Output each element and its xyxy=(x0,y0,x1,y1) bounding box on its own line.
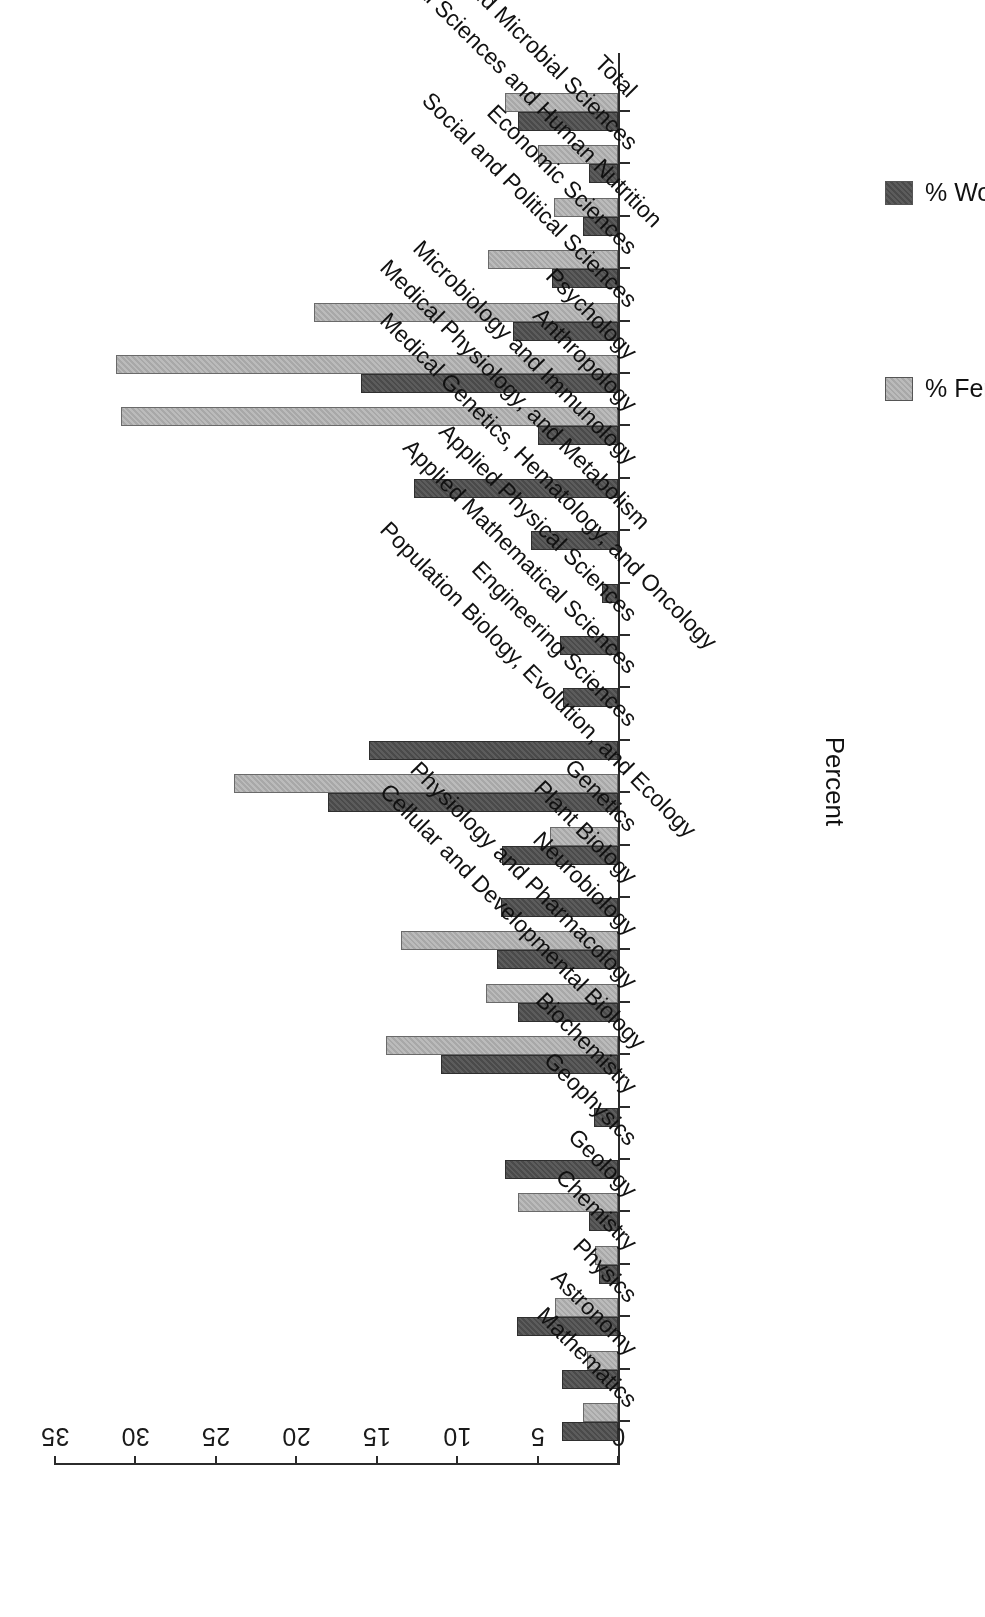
bar-chart-figure: 05101520253035 MathematicsAstronomyPhysi… xyxy=(0,0,985,1617)
category-tick xyxy=(620,424,630,426)
legend-swatch xyxy=(885,377,913,401)
category-tick xyxy=(620,844,630,846)
value-tick xyxy=(134,1456,136,1465)
category-tick xyxy=(620,1001,630,1003)
category-tick xyxy=(620,896,630,898)
legend-label: % Female PhDs pre-1969 xyxy=(925,374,985,403)
category-tick xyxy=(620,634,630,636)
legend-item: % Female PhDs pre-1969 xyxy=(885,377,945,407)
bar-group xyxy=(55,1401,618,1441)
chart-legend: % Female PhDs pre-1969% Women NAS Member… xyxy=(885,27,945,407)
category-tick xyxy=(620,686,630,688)
category-tick xyxy=(620,1420,630,1422)
category-tick xyxy=(620,372,630,374)
bar xyxy=(562,1422,618,1441)
category-tick xyxy=(620,1210,630,1212)
category-tick xyxy=(620,110,630,112)
value-tick xyxy=(537,1456,539,1465)
category-tick xyxy=(620,215,630,217)
category-tick xyxy=(620,1106,630,1108)
category-tick xyxy=(620,267,630,269)
category-tick xyxy=(620,1368,630,1370)
category-tick xyxy=(620,477,630,479)
chart-page: 05101520253035 MathematicsAstronomyPhysi… xyxy=(0,0,985,1617)
category-tick xyxy=(620,948,630,950)
value-tick xyxy=(456,1456,458,1465)
value-tick xyxy=(617,1456,619,1465)
value-tick xyxy=(295,1456,297,1465)
category-tick xyxy=(620,1263,630,1265)
category-tick xyxy=(620,1053,630,1055)
category-tick xyxy=(620,791,630,793)
value-tick xyxy=(376,1456,378,1465)
category-tick xyxy=(620,1158,630,1160)
value-axis-line xyxy=(55,1463,618,1465)
category-tick xyxy=(620,739,630,741)
category-tick xyxy=(620,582,630,584)
legend-item: % Women NAS Membership xyxy=(885,181,945,211)
category-tick xyxy=(620,529,630,531)
bar-group xyxy=(55,1349,618,1389)
value-tick xyxy=(215,1456,217,1465)
bar xyxy=(583,1403,618,1422)
category-tick xyxy=(620,162,630,164)
category-tick xyxy=(620,320,630,322)
legend-swatch xyxy=(885,181,913,205)
value-tick xyxy=(54,1456,56,1465)
value-axis-title: Percent xyxy=(820,632,851,932)
category-tick xyxy=(620,1315,630,1317)
legend-label: % Women NAS Membership xyxy=(925,178,985,207)
